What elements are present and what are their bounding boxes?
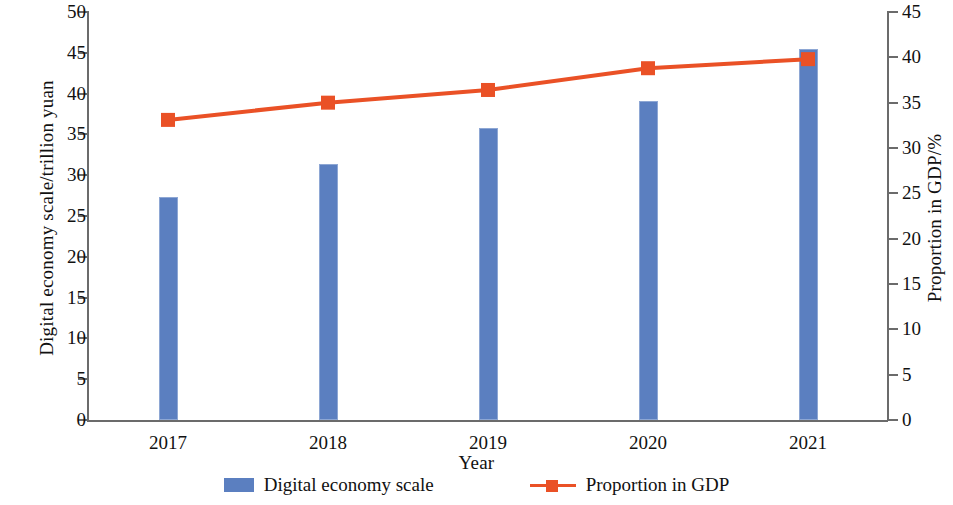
y-axis-right-tick-label: 15: [902, 274, 953, 293]
y-axis-right-tick-label: 25: [902, 183, 953, 202]
x-axis-title: Year: [0, 452, 953, 474]
legend-square-marker: [546, 480, 558, 492]
chart-container: Digital economy scale/trillion yuan Prop…: [0, 0, 953, 505]
y-axis-left-tick-label: 30: [26, 165, 86, 184]
y-axis-left-tick-label: 25: [26, 206, 86, 225]
line-marker: [481, 83, 495, 97]
y-axis-left-tick-label: 5: [26, 369, 86, 388]
y-axis-left-tick-label: 50: [26, 2, 86, 21]
y-axis-right-tick: [887, 11, 898, 13]
y-axis-left-tick-label: 20: [26, 247, 86, 266]
line-marker-icon: [530, 478, 576, 492]
legend-label-proportion-in-gdp: Proportion in GDP: [586, 474, 730, 496]
line-series-proportion-in-gdp: [88, 12, 888, 421]
y-axis-left-tick-label: 15: [26, 288, 86, 307]
legend-item-digital-economy-scale: Digital economy scale: [224, 474, 434, 496]
y-axis-right-tick-label: 20: [902, 229, 953, 248]
y-axis-right-tick: [887, 192, 898, 194]
y-axis-right-tick: [887, 102, 898, 104]
y-axis-right-tick-label: 10: [902, 319, 953, 338]
plot-area: 05101520253035404550 051015202530354045 …: [88, 12, 888, 420]
y-axis-right-tick-label: 30: [902, 138, 953, 157]
y-axis-right-tick: [887, 374, 898, 376]
y-axis-right-tick-label: 5: [902, 365, 953, 384]
x-axis-tick-label: 2017: [123, 432, 213, 454]
y-axis-right-tick-label: 0: [902, 410, 953, 429]
line-marker: [801, 52, 815, 66]
y-axis-right-tick: [887, 238, 898, 240]
x-axis-tick-label: 2018: [283, 432, 373, 454]
x-axis-tick-label: 2019: [443, 432, 533, 454]
y-axis-right-tick: [887, 283, 898, 285]
line-marker: [321, 96, 335, 110]
bar-swatch-icon: [224, 478, 254, 492]
y-axis-right-tick-label: 35: [902, 93, 953, 112]
chart-legend: Digital economy scale Proportion in GDP: [0, 474, 953, 496]
x-axis-tick-label: 2021: [763, 432, 853, 454]
y-axis-right-tick: [887, 147, 898, 149]
y-axis-right-tick: [887, 328, 898, 330]
legend-label-digital-economy-scale: Digital economy scale: [264, 474, 434, 496]
y-axis-left-tick-label: 40: [26, 84, 86, 103]
y-axis-right-tick-label: 45: [902, 2, 953, 21]
y-axis-left-tick-label: 0: [26, 410, 86, 429]
y-axis-right-tick: [887, 419, 898, 421]
y-axis-left-tick-label: 35: [26, 124, 86, 143]
y-axis-right-tick: [887, 56, 898, 58]
y-axis-left-tick-label: 45: [26, 43, 86, 62]
line-marker: [641, 61, 655, 75]
line-marker: [161, 113, 175, 127]
x-axis-tick-label: 2020: [603, 432, 693, 454]
legend-item-proportion-in-gdp: Proportion in GDP: [530, 474, 730, 496]
y-axis-right-tick-label: 40: [902, 47, 953, 66]
y-axis-left-tick-label: 10: [26, 328, 86, 347]
